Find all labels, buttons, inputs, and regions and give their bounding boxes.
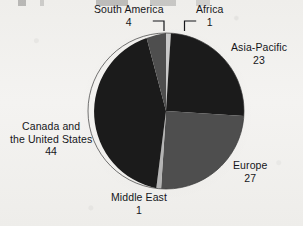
pie-label-south-america: South America 4 [94, 3, 164, 28]
pie-label-middle-east-name: Middle East [111, 191, 167, 203]
pie-label-middle-east: Middle East 1 [111, 191, 167, 216]
pie-label-canada-us-line2: the United States [10, 133, 92, 145]
pie-label-canada-us-value: 44 [10, 145, 92, 158]
pie-label-canada-us-line1: Canada and [22, 120, 80, 132]
pie-label-africa-value: 1 [196, 16, 223, 29]
pie-label-south-america-value: 4 [94, 16, 164, 29]
pie-chart-figure: South America 4 Africa 1 Asia-Pacific 23… [0, 0, 303, 226]
pie-label-asia-pacific: Asia-Pacific 23 [231, 41, 287, 66]
pie-label-south-america-name: South America [94, 3, 164, 15]
pie-label-africa-name: Africa [196, 3, 223, 15]
pie-svg [87, 32, 245, 190]
pie-label-europe: Europe 27 [233, 159, 267, 184]
pie-label-europe-name: Europe [233, 159, 267, 171]
pie-label-asia-pacific-value: 23 [231, 54, 287, 67]
pie-label-africa: Africa 1 [196, 3, 223, 28]
leader-line-africa [183, 19, 197, 32]
pie-label-europe-value: 27 [233, 172, 267, 185]
pie-slice-europe[interactable] [161, 111, 244, 189]
pie-graphic [87, 32, 245, 190]
pie-label-asia-pacific-name: Asia-Pacific [231, 41, 287, 53]
pie-label-canada-us: Canada and the United States 44 [10, 120, 92, 158]
pie-label-middle-east-value: 1 [111, 204, 167, 217]
